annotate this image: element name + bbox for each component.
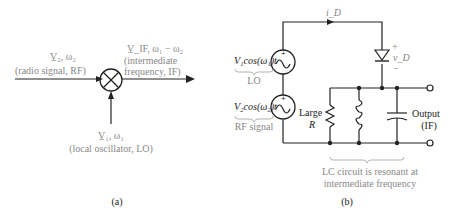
if-symbol: V̲_IF, ω₁ − ω₂ (127, 43, 183, 54)
rf-source-expression: V₂cos(ω₂)t (234, 101, 277, 112)
svg-text:+: + (281, 49, 286, 58)
if-description-line2: frequency, IF) (124, 66, 181, 77)
lo-symbol: V̲₁, ω₁ (80, 130, 142, 141)
output-label-line1: Output (412, 108, 440, 119)
diode-plus: + (392, 41, 398, 52)
resistor-label-line2: R (299, 119, 325, 130)
if-arrowhead-icon (186, 75, 195, 83)
lo-source-expression: V₁cos(ω₁)t (234, 55, 277, 66)
svg-text:+: + (281, 94, 286, 103)
junction-dots (328, 86, 399, 145)
mixer-icon (100, 69, 122, 91)
lo-arrowhead-icon (108, 91, 114, 99)
lo-source-label: LO (235, 75, 273, 86)
lc-note-line1: LC circuit is resonant at (310, 166, 430, 177)
diode-minus: − (393, 63, 399, 74)
current-label: i_D (326, 7, 341, 18)
output-terminal-bottom-icon (427, 140, 433, 146)
caption-b: (b) (330, 196, 364, 207)
output-terminal-top-icon (427, 85, 433, 91)
diode-icon (375, 50, 389, 61)
lo-description: (local oscillator, LO) (55, 143, 167, 154)
current-arrow-icon (327, 19, 334, 25)
output-label-line2: (IF) (412, 120, 446, 131)
lc-note-line2: intermediate frequency (310, 178, 430, 189)
rf-symbol: V̲₂, ω₂ (28, 51, 98, 62)
caption-a: (a) (100, 196, 134, 207)
if-description-line1: (intermediate (124, 55, 177, 66)
rf-description: (radio signal, RF) (15, 65, 86, 76)
rf-source-label: RF signal (230, 121, 278, 132)
lc-brace-icon (330, 157, 404, 163)
diode-voltage-label: v_D (393, 52, 410, 63)
resistor-label-line1: Large (299, 107, 322, 118)
